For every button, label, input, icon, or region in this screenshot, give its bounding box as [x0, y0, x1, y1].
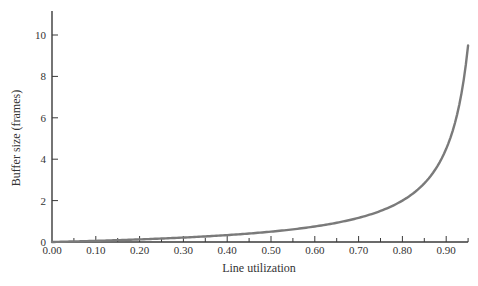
x-tick-label: 0.70: [349, 244, 369, 256]
x-tick-label: 0.80: [393, 244, 413, 256]
x-axis: 0.000.100.200.300.400.500.600.700.800.90: [42, 236, 468, 256]
line-chart: 0246810 0.000.100.200.300.400.500.600.70…: [0, 0, 478, 286]
x-tick-label: 0.10: [86, 244, 106, 256]
x-tick-label: 0.50: [261, 244, 281, 256]
x-tick-label: 0.20: [130, 244, 150, 256]
x-tick-label: 0.60: [305, 244, 325, 256]
y-axis: 0246810: [35, 11, 58, 248]
x-tick-label: 0.30: [174, 244, 194, 256]
buffer-size-curve: [52, 45, 468, 242]
data-series: [52, 45, 468, 242]
y-axis-title: Buffer size (frames): [9, 90, 23, 186]
x-tick-label: 0.00: [42, 244, 62, 256]
x-axis-title: Line utilization: [222, 261, 296, 275]
x-tick-label: 0.40: [218, 244, 238, 256]
y-tick-label: 6: [41, 112, 47, 124]
y-tick-label: 2: [41, 195, 47, 207]
y-tick-label: 10: [35, 29, 47, 41]
y-tick-label: 4: [41, 153, 47, 165]
y-tick-label: 8: [41, 70, 47, 82]
x-tick-label: 0.90: [437, 244, 457, 256]
